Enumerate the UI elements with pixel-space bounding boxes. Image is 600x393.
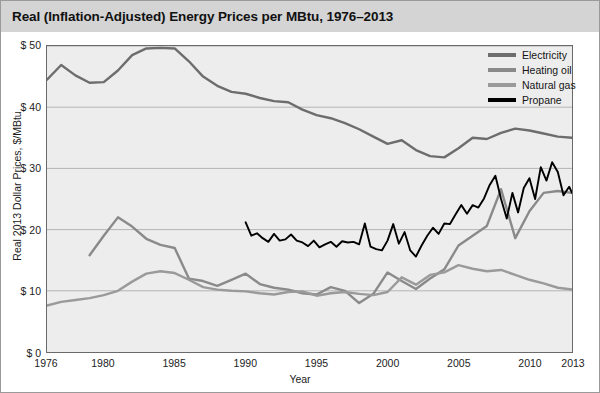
x-tick-label-2010: 2010 (518, 357, 541, 369)
series-line-propane (246, 162, 572, 256)
legend-swatch-icon-propane (488, 98, 516, 102)
x-tick-label-2000: 2000 (376, 357, 399, 369)
legend-label-propane: Propane (522, 94, 562, 106)
plot-wrapper: $ 0 $ 10 $ 20 $ 30 $ 40 $ 50 Real 2013 D… (1, 32, 599, 392)
legend-swatch-icon-electricity (488, 53, 516, 56)
page-title: Real (Inflation-Adjusted) Energy Prices … (12, 9, 393, 24)
x-axis-title: Year (1, 373, 599, 385)
x-tick-label-2005: 2005 (447, 357, 470, 369)
chart-figure: Real (Inflation-Adjusted) Energy Prices … (0, 0, 600, 393)
legend-label-natural-gas: Natural gas (522, 79, 576, 91)
chart-legend: Electricity Heating oil Natural gas Prop… (488, 49, 576, 106)
x-tick-label-1990: 1990 (234, 357, 257, 369)
x-tick-label-2013: 2013 (561, 357, 584, 369)
legend-label-electricity: Electricity (522, 49, 567, 61)
legend-item-electricity[interactable]: Electricity (488, 49, 576, 61)
x-tick-label-1976: 1976 (34, 357, 57, 369)
legend-label-heating-oil: Heating oil (522, 64, 572, 76)
y-tick-label-10: $ 10 (1, 285, 41, 297)
legend-item-propane[interactable]: Propane (488, 94, 576, 106)
legend-swatch-icon-natural-gas (488, 83, 516, 86)
series-line-natural-gas (47, 265, 572, 305)
x-tick-label-1985: 1985 (162, 357, 185, 369)
x-tick-label-1980: 1980 (91, 357, 114, 369)
legend-swatch-icon-heating-oil (488, 68, 516, 71)
y-axis-title: Real 2013 Dollar Prices, $/MBtu (11, 86, 23, 286)
x-tick-label-1995: 1995 (305, 357, 328, 369)
legend-item-heating-oil[interactable]: Heating oil (488, 64, 576, 76)
chart-title-bar: Real (Inflation-Adjusted) Energy Prices … (1, 1, 599, 32)
legend-item-natural-gas[interactable]: Natural gas (488, 79, 576, 91)
series-line-heating-oil (90, 189, 572, 303)
y-tick-label-50: $ 50 (1, 39, 41, 51)
